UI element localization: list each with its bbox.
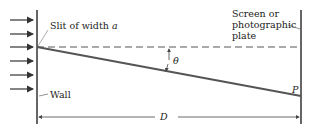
screen-label: Screen or photographic plate [232,8,296,41]
slit-label: Slit of width a [50,20,118,31]
screen-label-line3: plate [232,30,296,41]
slit-width-variable: a [112,20,118,31]
wall-leader [39,94,48,96]
point-p-label: P [292,84,298,95]
screen-label-line1: Screen or [232,8,296,19]
theta-angle-arrow-lower [166,64,168,71]
incident-wave-arrows [10,20,33,89]
screen-label-line2: photographic [232,19,296,30]
distance-label: D [160,111,168,122]
theta-label: θ [173,55,179,66]
slit-leader [38,30,48,46]
wall-label: Wall [50,89,71,100]
slit-label-text: Slit of width [50,20,109,31]
